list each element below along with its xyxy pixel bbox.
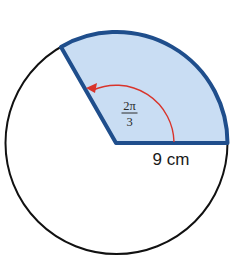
radius-label: 9 cm [153, 150, 190, 169]
angle-label-numerator: 2π [123, 99, 136, 113]
sector-diagram: 2π 3 9 cm [0, 0, 245, 269]
angle-label-denominator: 3 [126, 115, 132, 129]
